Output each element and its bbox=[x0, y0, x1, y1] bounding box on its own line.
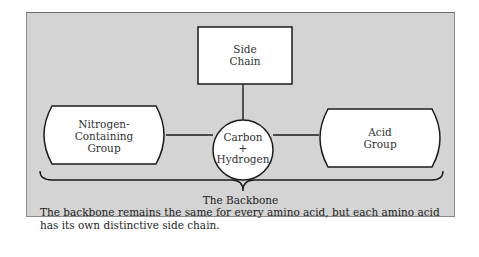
acid-group-label: Acid Group bbox=[320, 126, 440, 150]
nitrogen-label-line1: Nitrogen- bbox=[44, 118, 164, 130]
nitrogen-group-label: Nitrogen- Containing Group bbox=[44, 118, 164, 154]
nitrogen-label-line3: Group bbox=[44, 142, 164, 154]
carbon-hydrogen-label: Carbon + Hydrogen bbox=[213, 131, 273, 165]
side-chain-label: Side Chain bbox=[198, 43, 292, 67]
side-chain-label-line2: Chain bbox=[198, 55, 292, 67]
acid-label-line2: Group bbox=[320, 138, 440, 150]
diagram-caption: The backbone remains the same for every … bbox=[40, 206, 452, 232]
nitrogen-label-line2: Containing bbox=[44, 130, 164, 142]
acid-label-line1: Acid bbox=[320, 126, 440, 138]
center-label-line2: + bbox=[213, 143, 273, 153]
center-label-line3: Hydrogen bbox=[213, 153, 273, 165]
backbone-label: The Backbone bbox=[26, 194, 455, 206]
side-chain-label-line1: Side bbox=[198, 43, 292, 55]
